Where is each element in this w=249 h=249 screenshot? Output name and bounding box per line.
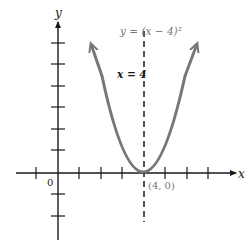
- axis-of-symmetry-label: x = 4: [116, 68, 147, 80]
- curve-equation-label: y = (x − 4)²: [119, 25, 182, 37]
- vertex-label: (4, 0): [148, 180, 175, 191]
- x-axis-label: x: [238, 167, 245, 181]
- curve-arrow-left: [91, 44, 102, 76]
- parabola-graph: y x 0 y = (x − 4)² x = 4 (4, 0): [0, 0, 249, 249]
- y-axis-label: y: [54, 6, 62, 20]
- origin-label: 0: [47, 177, 53, 188]
- curve-arrow-right: [185, 44, 197, 76]
